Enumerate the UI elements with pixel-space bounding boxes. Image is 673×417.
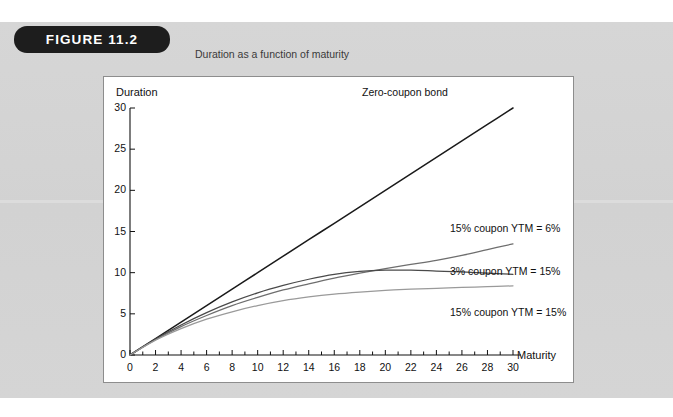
y-tick-label: 20 bbox=[104, 183, 126, 195]
y-tick-label: 30 bbox=[104, 101, 126, 113]
x-tick-label: 24 bbox=[424, 361, 448, 373]
curve-label-1: 15% coupon YTM = 6% bbox=[450, 222, 560, 234]
x-tick-label: 26 bbox=[450, 361, 474, 373]
curve-label-0: Zero-coupon bond bbox=[362, 86, 448, 98]
y-tick-label: 0 bbox=[104, 348, 126, 360]
y-axis-title: Duration bbox=[116, 86, 158, 98]
x-tick-label: 8 bbox=[220, 361, 244, 373]
x-tick-label: 4 bbox=[169, 361, 193, 373]
x-tick-label: 18 bbox=[348, 361, 372, 373]
x-tick-label: 10 bbox=[246, 361, 270, 373]
x-tick-label: 22 bbox=[399, 361, 423, 373]
figure-root: FIGURE 11.2 Duration as a function of ma… bbox=[0, 0, 673, 417]
x-tick-label: 20 bbox=[373, 361, 397, 373]
x-tick-label: 28 bbox=[475, 361, 499, 373]
x-tick-label: 12 bbox=[271, 361, 295, 373]
curve-label-2: 3% coupon YTM = 15% bbox=[450, 265, 560, 277]
x-tick-label: 16 bbox=[322, 361, 346, 373]
figure-number-badge: FIGURE 11.2 bbox=[14, 26, 170, 53]
series-line-3 bbox=[130, 286, 513, 355]
x-tick-label: 6 bbox=[195, 361, 219, 373]
x-tick-label: 2 bbox=[144, 361, 168, 373]
x-tick-label: 30 bbox=[501, 361, 525, 373]
y-tick-label: 10 bbox=[104, 266, 126, 278]
x-axis-title: Maturity bbox=[517, 349, 556, 361]
series-line-1 bbox=[130, 244, 513, 355]
y-tick-label: 25 bbox=[104, 142, 126, 154]
y-tick-label: 5 bbox=[104, 307, 126, 319]
y-tick-label: 15 bbox=[104, 225, 126, 237]
figure-subtitle: Duration as a function of maturity bbox=[195, 48, 349, 60]
x-tick-label: 0 bbox=[118, 361, 142, 373]
curve-label-3: 15% coupon YTM = 15% bbox=[450, 306, 566, 318]
x-tick-label: 14 bbox=[297, 361, 321, 373]
